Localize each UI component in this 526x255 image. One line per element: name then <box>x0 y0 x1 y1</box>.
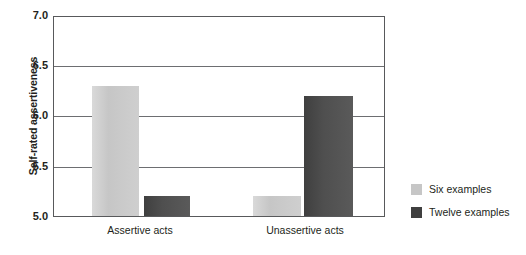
bar-unassertive-six-examples <box>253 196 301 216</box>
x-category-label-assertive-acts: Assertive acts <box>75 224 205 236</box>
bar-assertive-twelve-examples <box>144 196 190 216</box>
y-tick-label-5-5: 5.5 <box>8 161 48 172</box>
chart-legend: Six examples Twelve examples <box>411 183 523 229</box>
legend-item-twelve-examples: Twelve examples <box>411 206 523 219</box>
y-tick-label-5-0: 5.0 <box>8 211 48 222</box>
legend-swatch-icon-twelve-examples <box>411 207 422 218</box>
plot-area <box>53 16 385 217</box>
bar-chart-figure: Self-rated assertiveness 7.0 6.5 6.0 5.5… <box>0 0 526 255</box>
legend-label-twelve-examples: Twelve examples <box>429 207 510 218</box>
legend-item-six-examples: Six examples <box>411 183 523 196</box>
bar-unassertive-twelve-examples <box>304 96 353 216</box>
bar-assertive-six-examples <box>92 86 139 216</box>
y-tick-label-6-0: 6.0 <box>8 110 48 121</box>
y-tick-label-7-0: 7.0 <box>8 10 48 21</box>
legend-swatch-icon-six-examples <box>411 184 422 195</box>
legend-label-six-examples: Six examples <box>429 184 491 195</box>
gridline-6-5 <box>54 66 384 67</box>
y-tick-label-6-5: 6.5 <box>8 60 48 71</box>
x-category-label-unassertive-acts: Unassertive acts <box>240 224 370 236</box>
